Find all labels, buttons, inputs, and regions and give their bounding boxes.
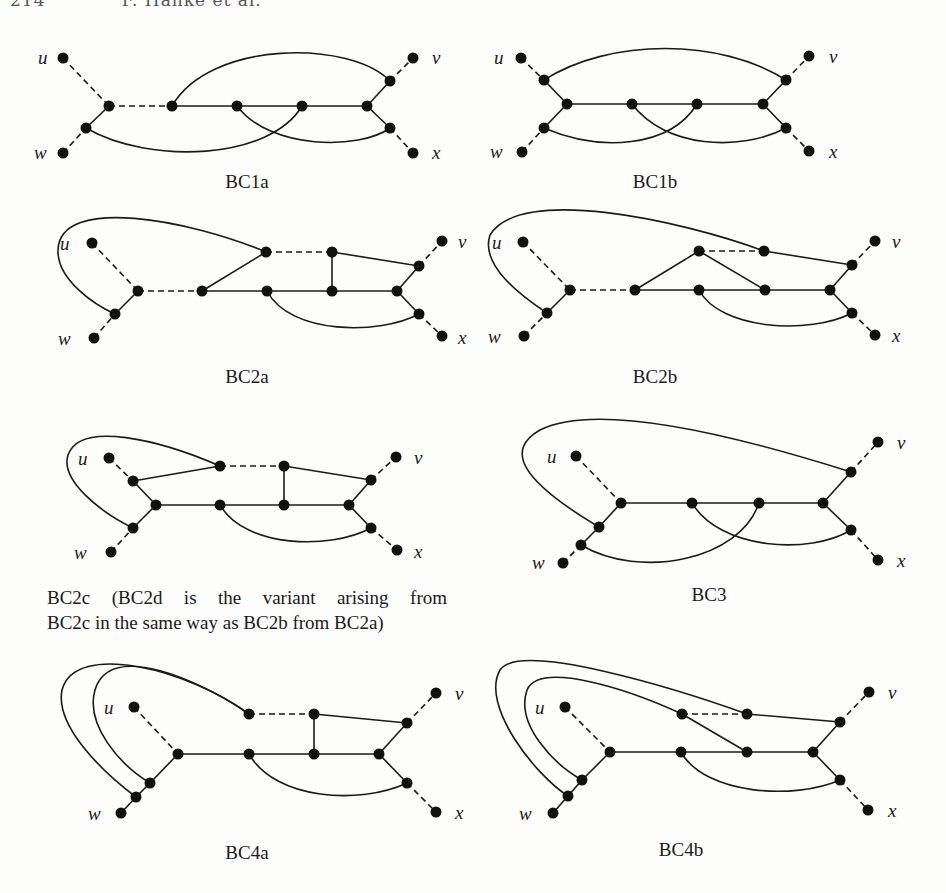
caption-bc4b: BC4b [659, 839, 703, 861]
curved-edge [267, 291, 419, 328]
dashed-edge [840, 780, 868, 810]
solid-edge [314, 714, 407, 723]
vertex-w [58, 148, 69, 159]
vertex-T [758, 99, 769, 110]
vertex-F [309, 709, 320, 720]
vertex-B [594, 522, 605, 533]
vertex-S [692, 99, 703, 110]
terminal-label-x: x [413, 541, 423, 562]
curved-edge [488, 210, 764, 313]
dashed-edge [407, 783, 436, 812]
vertex-G [327, 286, 338, 297]
vertex-J [847, 308, 858, 319]
solid-edge [379, 723, 407, 754]
vertex-F [759, 246, 770, 257]
dashed-edge [576, 456, 621, 503]
terminal-label-v: v [897, 432, 906, 453]
vertex-L [128, 523, 139, 534]
terminal-label-v: v [458, 231, 467, 252]
vertex-v [870, 236, 881, 247]
vertex-C [630, 285, 641, 296]
terminal-label-x: x [887, 800, 897, 821]
vertex-G [309, 749, 320, 760]
terminal-label-w: w [519, 803, 532, 824]
vertex-E [694, 246, 705, 257]
terminal-label-w: w [490, 141, 503, 162]
vertex-D [232, 101, 243, 112]
graph-bc4a: uvwx [61, 664, 464, 824]
dashed-edge [63, 58, 109, 106]
terminal-label-x: x [891, 325, 901, 346]
vertex-w [517, 147, 528, 158]
vertex-u [58, 53, 69, 64]
curved-edge [522, 419, 851, 527]
graph-bc2a: uvwx [58, 218, 467, 349]
terminal-label-w: w [74, 542, 87, 563]
vertex-w [89, 333, 100, 344]
graph-bc2c: uvwx [67, 436, 423, 563]
solid-edge [813, 752, 840, 780]
vertex-Q [562, 99, 573, 110]
curved-edge [58, 218, 266, 314]
dashed-edge [851, 442, 878, 472]
curved-edge [681, 752, 840, 791]
vertex-D [694, 285, 705, 296]
terminal-label-w: w [488, 326, 501, 347]
vertex-v [873, 437, 884, 448]
dashed-edge [565, 707, 610, 752]
vertex-E [279, 461, 290, 472]
solid-edge [813, 722, 840, 752]
vertex-B [81, 123, 92, 134]
vertex-E [297, 101, 308, 112]
vertex-I [847, 260, 858, 271]
terminal-label-u: u [492, 232, 502, 253]
solid-edge [747, 714, 840, 722]
terminal-label-u: u [104, 697, 114, 718]
vertex-B [577, 775, 588, 786]
graph-figures: uvwxuvwxuvwxuvwxuvwxuvwxuvwxuvwx [0, 0, 946, 893]
terminal-label-w: w [58, 328, 71, 349]
vertex-x [408, 148, 419, 159]
vertex-x [431, 807, 442, 818]
terminal-label-v: v [455, 683, 464, 704]
vertex-F [818, 498, 829, 509]
terminal-label-u: u [547, 446, 557, 467]
dashed-edge [92, 243, 138, 291]
vertex-D [262, 286, 273, 297]
curved-edge [172, 53, 390, 106]
vertex-H [385, 123, 396, 134]
caption-line: BC2c in the same way as BC2b from BC2a) [47, 610, 447, 635]
vertex-D [244, 749, 255, 760]
terminal-label-u: u [60, 233, 70, 254]
terminal-label-v: v [888, 682, 897, 703]
vertex-E [677, 709, 688, 720]
vertex-I [835, 717, 846, 728]
vertex-u [516, 53, 527, 64]
dashed-edge [407, 693, 436, 723]
vertex-H [374, 749, 385, 760]
vertex-H [846, 525, 857, 536]
vertex-u [560, 702, 571, 713]
vertex-H [366, 475, 377, 486]
terminal-label-u: u [535, 697, 545, 718]
vertex-v [437, 236, 448, 247]
solid-edge [635, 251, 699, 290]
vertex-D [215, 461, 226, 472]
curved-edge [67, 436, 220, 528]
terminal-label-v: v [892, 231, 901, 252]
terminal-label-w: w [532, 552, 545, 573]
vertex-I [402, 718, 413, 729]
vertex-w [548, 808, 559, 819]
vertex-C [576, 540, 587, 551]
terminal-label-x: x [431, 142, 441, 163]
vertex-I [414, 261, 425, 272]
graph-bc3: uvwx [522, 419, 906, 573]
vertex-D [687, 498, 698, 509]
vertex-w [116, 808, 127, 819]
caption-bc2c: BC2c (BC2d is the variant arising fromBC… [47, 585, 447, 635]
vertex-C [131, 792, 142, 803]
solid-edge [284, 466, 371, 480]
solid-edge [699, 251, 765, 290]
vertex-B [151, 500, 162, 511]
solid-edge [764, 251, 852, 265]
